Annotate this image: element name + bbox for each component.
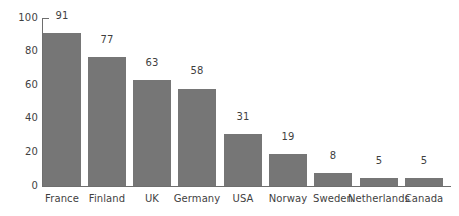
bar-sweden[interactable]: 8	[314, 0, 352, 186]
y-axis-tick-20: 20	[0, 147, 38, 157]
bar-value-label: 77	[88, 34, 126, 45]
bar-rect[interactable]	[405, 178, 443, 186]
x-axis-category-labels: France Finland UK Germany USA Norway Swe…	[43, 193, 451, 209]
bar-uk[interactable]: 63	[133, 0, 171, 186]
y-axis-tick-80: 80	[0, 46, 38, 56]
bar-france[interactable]: 91	[43, 0, 81, 186]
bar-rect[interactable]	[43, 33, 81, 186]
y-axis-tick-label: 20	[6, 147, 38, 157]
bar-rect[interactable]	[178, 89, 216, 186]
bar-usa[interactable]: 31	[224, 0, 262, 186]
bar-canada[interactable]: 5	[405, 0, 443, 186]
bar-value-label: 5	[405, 155, 443, 166]
bar-value-label: 91	[43, 10, 81, 21]
x-axis-label-canada: Canada	[394, 193, 454, 205]
bar-chart: 100 80 60 40 20 0 91 77 63	[0, 0, 459, 216]
y-axis-tick-label: 60	[6, 80, 38, 90]
bars-layer: 91 77 63 58 31 19 8 5	[43, 0, 451, 186]
bar-value-label: 5	[360, 155, 398, 166]
bar-rect[interactable]	[133, 80, 171, 186]
bar-value-label: 19	[269, 131, 307, 142]
bar-netherlands[interactable]: 5	[360, 0, 398, 186]
bar-value-label: 58	[178, 65, 216, 76]
y-axis-tick-100: 100	[0, 13, 38, 23]
y-axis-tick-label: 40	[6, 113, 38, 123]
y-axis-tick-label: 80	[6, 46, 38, 56]
bar-value-label: 63	[133, 57, 171, 68]
bar-finland[interactable]: 77	[88, 0, 126, 186]
bar-norway[interactable]: 19	[269, 0, 307, 186]
y-axis-tick-label: 100	[6, 13, 38, 23]
bar-value-label: 31	[224, 111, 262, 122]
x-axis-line	[42, 186, 451, 187]
bar-rect[interactable]	[269, 154, 307, 186]
bar-rect[interactable]	[224, 134, 262, 186]
y-axis-tick-label: 0	[6, 181, 38, 191]
y-axis-tick-0: 0	[0, 181, 38, 191]
bar-rect[interactable]	[314, 173, 352, 186]
bar-value-label: 8	[314, 150, 352, 161]
y-axis-tick-40: 40	[0, 113, 38, 123]
y-axis-tick-60: 60	[0, 80, 38, 90]
bar-germany[interactable]: 58	[178, 0, 216, 186]
bar-rect[interactable]	[360, 178, 398, 186]
bar-rect[interactable]	[88, 57, 126, 186]
